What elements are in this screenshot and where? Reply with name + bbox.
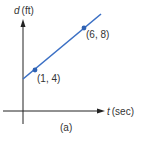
x-unit: (sec) — [112, 106, 134, 117]
figure-caption: (a) — [60, 122, 72, 133]
y-axis-arrow-icon — [21, 19, 26, 27]
chart: d(ft) (6, 8) (1, 4) t(sec) (a) — [0, 0, 142, 141]
point-1-label: (1, 4) — [37, 73, 60, 84]
point-2-label: (6, 8) — [86, 29, 109, 40]
point-1-marker — [33, 68, 38, 73]
y-unit: (ft) — [22, 5, 34, 16]
y-axis-label: d(ft) — [14, 5, 34, 16]
y-var: d — [14, 5, 20, 16]
x-var: t — [107, 106, 111, 117]
x-axis-arrow-icon — [97, 109, 105, 114]
x-axis-label: t(sec) — [107, 106, 134, 117]
